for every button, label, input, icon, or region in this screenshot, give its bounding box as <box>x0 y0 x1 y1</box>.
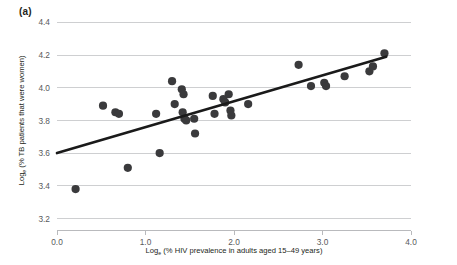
x-tick-label: 4.0 <box>405 237 417 247</box>
data-point <box>168 77 176 85</box>
data-point <box>209 92 217 100</box>
scatter-plot: 3.23.43.63.84.04.24.4 0.01.02.03.04.0 Lo… <box>0 0 457 265</box>
data-point <box>295 61 303 69</box>
x-axis-title: Loge (% HIV prevalence in adults aged 15… <box>146 246 323 256</box>
x-tick-label: 3.0 <box>317 237 329 247</box>
data-point <box>210 110 218 118</box>
tick-marks <box>57 231 411 235</box>
data-point <box>307 82 315 90</box>
data-point <box>71 185 79 193</box>
x-tick-labels: 0.01.02.03.04.0 <box>51 237 417 247</box>
data-point <box>179 90 187 98</box>
data-point <box>322 82 330 90</box>
y-tick-label: 3.6 <box>38 148 50 158</box>
data-point <box>244 100 252 108</box>
data-point <box>191 129 199 137</box>
data-point <box>225 90 233 98</box>
y-tick-label: 3.2 <box>38 214 50 224</box>
figure-panel-a: (a) 3.23.43.63.84.04.24.4 0.01.02.03.04.… <box>0 0 457 265</box>
x-tick-label: 1.0 <box>140 237 152 247</box>
y-axis-title: Loge (% TB patients that were women) <box>17 55 27 185</box>
data-point <box>99 102 107 110</box>
data-point <box>190 115 198 123</box>
data-point <box>115 110 123 118</box>
data-point <box>152 110 160 118</box>
y-tick-label: 4.4 <box>38 17 50 27</box>
data-point <box>341 72 349 80</box>
y-tick-label: 4.2 <box>38 50 50 60</box>
data-point <box>124 164 132 172</box>
gridlines <box>57 22 411 218</box>
y-tick-label: 3.8 <box>38 116 50 126</box>
axis-titles: Loge (% HIV prevalence in adults aged 15… <box>17 55 323 256</box>
data-point <box>369 62 377 70</box>
y-tick-label: 4.0 <box>38 83 50 93</box>
y-tick-label: 3.4 <box>38 181 50 191</box>
x-tick-label: 0.0 <box>51 237 63 247</box>
y-tick-labels: 3.23.43.63.84.04.24.4 <box>38 17 50 223</box>
x-tick-label: 2.0 <box>228 237 240 247</box>
data-point <box>171 100 179 108</box>
data-point <box>227 111 235 119</box>
data-point <box>182 116 190 124</box>
data-point <box>156 149 164 157</box>
